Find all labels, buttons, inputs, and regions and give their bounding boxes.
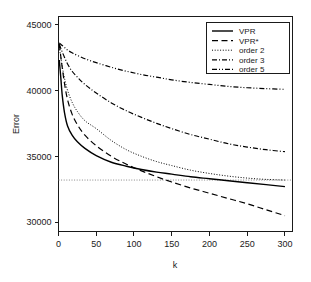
x-tick-label: 50 (91, 239, 101, 249)
y-tick-label: 35000 (26, 152, 51, 162)
x-tick-label: 150 (164, 239, 179, 249)
legend-label-vpr: VPR* (239, 37, 259, 46)
x-axis-title: k (173, 260, 178, 270)
x-tick-label: 100 (126, 239, 141, 249)
x-tick-label: 300 (277, 239, 292, 249)
legend-label-order-3: order 3 (239, 56, 265, 65)
x-tick-label: 0 (56, 239, 61, 249)
x-tick-label: 200 (202, 239, 217, 249)
y-tick-label: 45000 (26, 20, 51, 30)
y-axis-title: Error (11, 114, 21, 134)
line-chart: 30000350004000045000 050100150200250300 … (0, 0, 311, 282)
y-tick-label: 40000 (26, 86, 51, 96)
legend-label-vpr: VPR (239, 27, 256, 36)
legend-label-order-5: order 5 (239, 65, 265, 74)
chart-legend: VPRVPR*order 2order 3order 5 (207, 23, 290, 75)
y-tick-label: 30000 (26, 217, 51, 227)
chart-container: 30000350004000045000 050100150200250300 … (0, 0, 311, 282)
x-tick-label: 250 (240, 239, 255, 249)
legend-label-order-2: order 2 (239, 46, 265, 55)
